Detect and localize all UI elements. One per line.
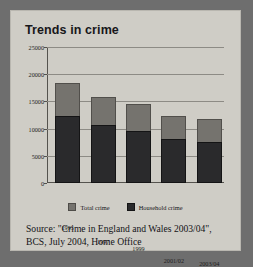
y-axis-tick-label: 0 bbox=[41, 180, 44, 187]
bar-segment-household-crime[interactable] bbox=[126, 131, 151, 183]
legend-label: Household crime bbox=[139, 204, 183, 211]
y-axis-tick-label: 5000 bbox=[32, 152, 44, 159]
source-line-2: BCS, July 2004, Home Office bbox=[26, 235, 228, 248]
y-axis-tick-label: 25000 bbox=[29, 44, 44, 51]
bar-segment-household-crime[interactable] bbox=[91, 125, 116, 183]
legend-label: Total crime bbox=[80, 204, 109, 211]
legend-item[interactable]: Household crime bbox=[127, 203, 183, 211]
plot-area: 0500010000150002000025000 19951997199920… bbox=[47, 47, 224, 183]
legend-swatch-total-crime bbox=[68, 203, 76, 211]
x-axis-tick-label: 2003/04 bbox=[199, 260, 219, 267]
legend-item[interactable]: Total crime bbox=[68, 203, 109, 211]
y-axis-tick-mark bbox=[44, 183, 47, 184]
bar-series: 1995199719992001/022003/04 bbox=[47, 47, 224, 183]
y-axis-tick-label: 20000 bbox=[29, 71, 44, 78]
legend-swatch-household-crime bbox=[127, 203, 135, 211]
bar-group[interactable]: 1995 bbox=[55, 83, 80, 183]
bar-group[interactable]: 2003/04 bbox=[197, 119, 222, 183]
bar-segment-household-crime[interactable] bbox=[197, 142, 222, 183]
y-axis-tick-label: 15000 bbox=[29, 98, 44, 105]
source-note: Source: "Crime in England and Wales 2003… bbox=[26, 222, 228, 248]
bar-segment-household-crime[interactable] bbox=[55, 116, 80, 183]
y-axis-tick-label: 10000 bbox=[29, 125, 44, 132]
chart-legend: Total crimeHousehold crime bbox=[11, 203, 240, 211]
bar-segment-household-crime[interactable] bbox=[161, 139, 186, 183]
bar-group[interactable]: 2001/02 bbox=[161, 116, 186, 183]
figure-panel: Trends in crime 050001000015000200002500… bbox=[11, 11, 240, 250]
bar-group[interactable]: 1999 bbox=[126, 104, 151, 183]
bar-group[interactable]: 1997 bbox=[91, 97, 116, 183]
source-line-1: Source: "Crime in England and Wales 2003… bbox=[26, 222, 228, 235]
chart-title: Trends in crime bbox=[25, 23, 119, 37]
x-axis-tick-label: 2001/02 bbox=[164, 257, 184, 264]
